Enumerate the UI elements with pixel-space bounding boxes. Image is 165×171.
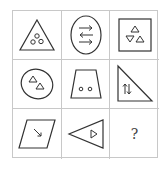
ellipse-with-three-arrows-icon <box>69 14 103 56</box>
cell-r3-c3-answer[interactable]: ? <box>110 109 159 159</box>
cell-r1-c1 <box>13 11 62 60</box>
ellipse-with-two-triangles-icon <box>19 67 55 101</box>
square-with-three-triangles-icon <box>117 17 153 53</box>
right-triangle-with-up-down-arrows-icon <box>116 64 154 104</box>
cell-r3-c1 <box>13 109 62 159</box>
cell-r1-c2 <box>62 11 110 60</box>
cell-r2-c1 <box>13 60 62 109</box>
cell-r2-c2 <box>62 60 110 109</box>
cell-r2-c3 <box>110 60 159 109</box>
triangle-with-three-circles-icon <box>17 17 57 53</box>
puzzle-grid: ? <box>12 10 158 158</box>
left-triangle-with-right-triangle-icon <box>66 118 106 150</box>
parallelogram-with-arrow-icon <box>17 118 57 150</box>
trapezoid-with-two-circles-icon <box>68 67 104 101</box>
question-mark: ? <box>131 126 139 142</box>
cell-r1-c3 <box>110 11 159 60</box>
cell-r3-c2 <box>62 109 110 159</box>
